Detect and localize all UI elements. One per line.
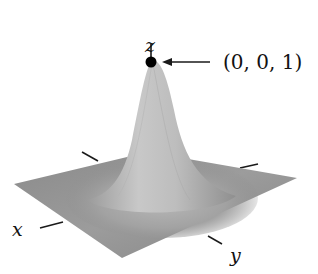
arrowhead-icon (162, 58, 172, 66)
peak-point-label: (0, 0, 1) (223, 52, 302, 72)
y-axis-back-segment (240, 164, 258, 168)
surface-figure: z (0, 0, 1) x y (0, 0, 318, 274)
x-axis-back-segment (82, 152, 98, 161)
x-axis-front-segment (40, 222, 63, 228)
x-axis-label: x (12, 220, 23, 239)
peak-point-marker (146, 57, 157, 68)
y-axis-label: y (230, 246, 241, 265)
y-axis-front-segment (208, 236, 222, 244)
gaussian-bump (86, 61, 236, 213)
surface-plot-graphic (0, 0, 318, 274)
z-axis-label: z (145, 36, 155, 55)
